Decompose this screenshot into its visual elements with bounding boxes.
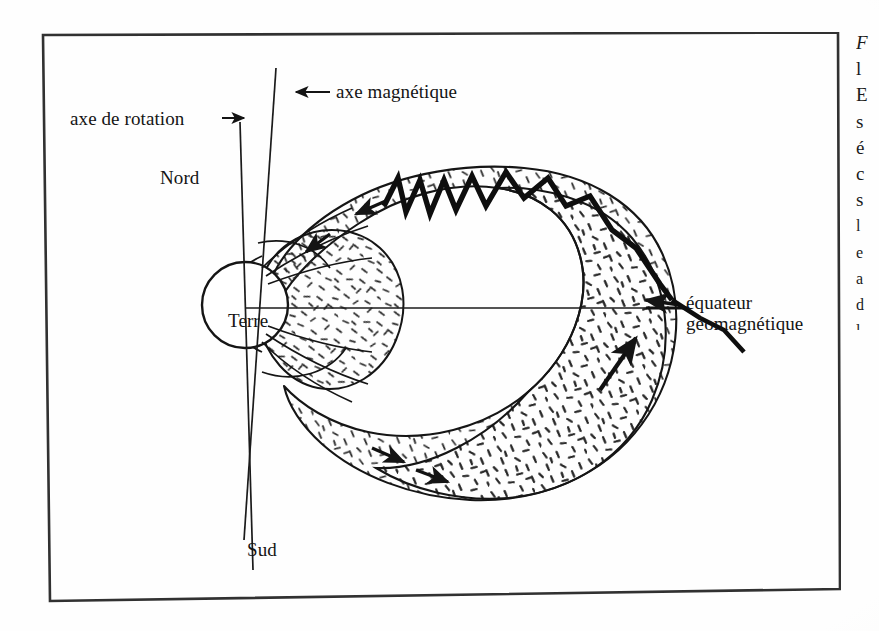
text-column-line: E <box>856 82 879 108</box>
text-column-line: e <box>856 240 879 266</box>
label-axe-de-rotation: axe de rotation <box>70 108 184 129</box>
text-column-line: s <box>856 109 879 135</box>
label-sud: Sud <box>247 539 277 560</box>
body-text-column: F l E s é c s l e a d l <box>856 30 879 330</box>
text-column-line: c <box>856 161 879 187</box>
label-nord: Nord <box>160 167 199 188</box>
page-canvas: axe de rotation axe magnétique Nord Sud … <box>0 0 879 631</box>
text-column-line: l <box>856 213 879 239</box>
label-equateur-geomagnetique: équateur géomagnétique <box>686 292 803 335</box>
text-column-line: é <box>856 135 879 161</box>
text-column-line: l <box>856 318 879 330</box>
text-column-line: s <box>856 187 879 213</box>
text-column-line: a <box>856 266 879 292</box>
text-column-line: l <box>856 56 879 82</box>
label-equateur-line2: géomagnétique <box>686 313 803 334</box>
label-equateur-line1: équateur <box>686 292 803 313</box>
label-terre: Terre <box>228 310 268 331</box>
text-column-line: F <box>856 30 879 56</box>
text-column-line: d <box>856 292 879 318</box>
label-leaders <box>222 92 330 118</box>
label-axe-magnetique: axe magnétique <box>336 81 457 102</box>
